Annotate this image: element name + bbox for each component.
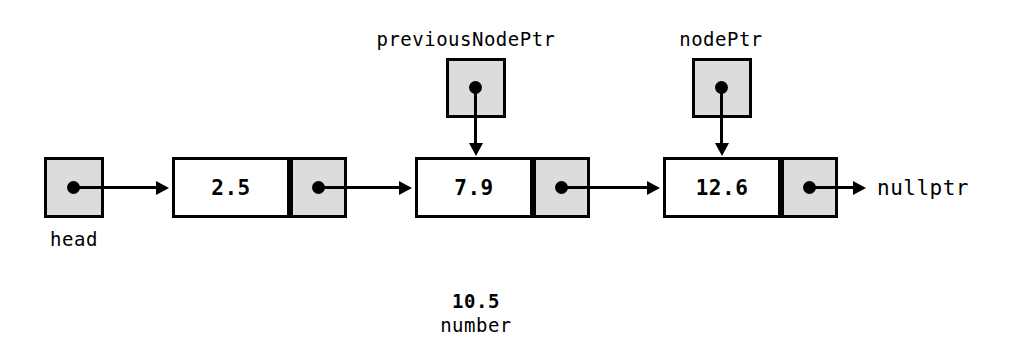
new-number-label: number	[406, 314, 546, 336]
node-3-value: 12.6	[663, 176, 781, 200]
previous-node-ptr-arrowhead-icon	[469, 143, 483, 156]
previous-node-ptr-arrow-shaft	[474, 87, 477, 145]
node3-to-nullptr-arrowhead-icon	[853, 181, 866, 195]
previous-node-ptr-label: previousNodePtr	[336, 28, 596, 50]
node-2-value: 7.9	[415, 176, 533, 200]
node2-to-node3-arrowhead-icon	[647, 181, 660, 195]
node-ptr-arrow-shaft	[720, 87, 723, 145]
node2-to-node3-arrow-shaft	[561, 186, 649, 189]
node-1-value: 2.5	[172, 176, 290, 200]
linked-list-diagram: previousNodePtr nodePtr head 2.5 7.9 12.…	[0, 0, 1017, 351]
node-ptr-arrowhead-icon	[715, 143, 729, 156]
new-number-value: 10.5	[406, 290, 546, 312]
head-to-node1-arrow-shaft	[73, 186, 158, 189]
node-ptr-label: nodePtr	[651, 28, 791, 50]
nullptr-label: nullptr	[877, 176, 969, 200]
head-label: head	[24, 228, 124, 250]
node1-to-node2-arrow-shaft	[318, 186, 401, 189]
head-to-node1-arrowhead-icon	[156, 181, 169, 195]
node1-to-node2-arrowhead-icon	[399, 181, 412, 195]
node3-to-nullptr-arrow-shaft	[809, 186, 855, 189]
